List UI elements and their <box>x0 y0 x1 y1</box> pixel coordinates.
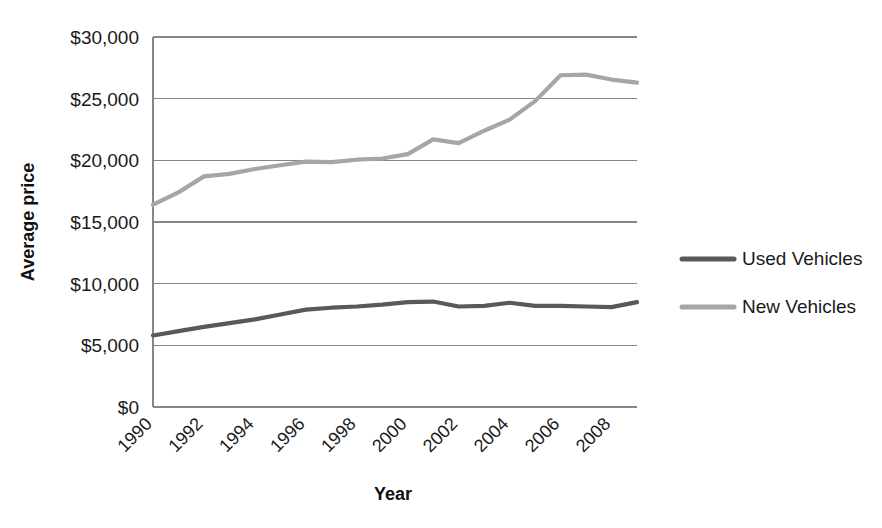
x-tick-label: 1994 <box>215 414 257 456</box>
chart-container: $0$5,000$10,000$15,000$20,000$25,000$30,… <box>0 0 882 528</box>
x-axis-tick-labels: 1990199219941996199820002002200420062008 <box>113 414 614 456</box>
legend-label-used-vehicles: Used Vehicles <box>742 248 862 269</box>
x-tick-label: 2000 <box>368 414 410 456</box>
x-tick-label: 1990 <box>113 414 155 456</box>
series-line-new-vehicles <box>153 75 637 205</box>
x-tick-label: 1996 <box>266 414 308 456</box>
y-tick-label: $5,000 <box>81 335 139 356</box>
x-tick-label: 1998 <box>317 414 359 456</box>
chart-legend: Used VehiclesNew Vehicles <box>682 248 862 317</box>
y-tick-label: $25,000 <box>70 89 139 110</box>
y-axis-tick-labels: $0$5,000$10,000$15,000$20,000$25,000$30,… <box>70 27 139 418</box>
x-axis-title: Year <box>374 484 412 504</box>
y-tick-label: $10,000 <box>70 274 139 295</box>
data-series <box>153 75 637 336</box>
x-tick-label: 2004 <box>470 414 512 456</box>
y-tick-label: $15,000 <box>70 212 139 233</box>
gridlines <box>153 37 637 407</box>
y-tick-label: $0 <box>118 397 139 418</box>
x-tick-label: 2008 <box>572 414 614 456</box>
y-tick-label: $30,000 <box>70 27 139 48</box>
legend-label-new-vehicles: New Vehicles <box>742 296 856 317</box>
y-axis-title: Average price <box>18 163 38 281</box>
line-chart: $0$5,000$10,000$15,000$20,000$25,000$30,… <box>0 0 882 528</box>
x-tick-label: 2006 <box>521 414 563 456</box>
x-tick-label: 2002 <box>419 414 461 456</box>
x-tick-label: 1992 <box>164 414 206 456</box>
y-tick-label: $20,000 <box>70 150 139 171</box>
series-line-used-vehicles <box>153 302 637 336</box>
